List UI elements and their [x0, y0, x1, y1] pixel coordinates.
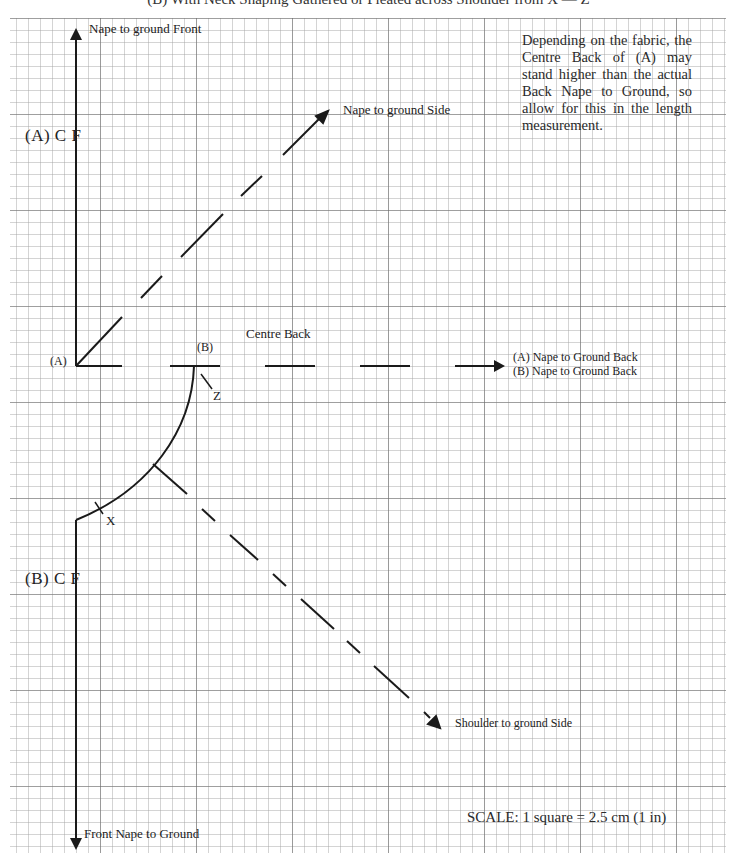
label-front-nape: Front Nape to Ground — [84, 826, 199, 842]
label-shoulder-side: Shoulder to ground Side — [455, 716, 572, 731]
label-nape-front: Nape to ground Front — [89, 21, 201, 37]
label-a-point: (A) — [50, 354, 67, 369]
label-a-cf: (A) C F — [25, 126, 81, 146]
label-b-point: (B) — [197, 340, 213, 355]
label-nape-side: Nape to ground Side — [343, 102, 450, 118]
label-centre-back: Centre Back — [246, 326, 311, 342]
label-z: Z — [213, 388, 221, 404]
label-x: X — [106, 513, 115, 529]
label-a-back: (A) Nape to Ground Back — [513, 350, 638, 365]
scale-label: SCALE: 1 square = 2.5 cm (1 in) — [467, 809, 666, 826]
label-b-back: (B) Nape to Ground Back — [513, 364, 637, 379]
fabric-note: Depending on the fabric, the Centre Back… — [522, 32, 692, 134]
graph-paper-grid — [10, 18, 726, 853]
label-b-cf: (B) C F — [25, 569, 80, 589]
